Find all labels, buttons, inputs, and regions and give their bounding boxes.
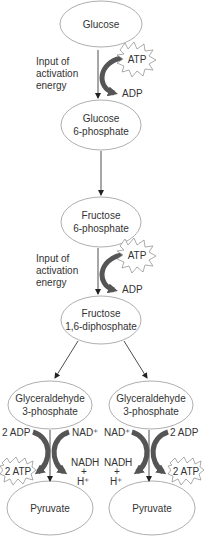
label-glucose-6p-1: Glucose	[83, 113, 120, 124]
curved-arrow-adp-to-atp-left	[33, 432, 48, 472]
node-g3p-left	[8, 381, 92, 429]
label-glucose: Glucose	[83, 19, 120, 30]
label-fructose-6p-1: Fructose	[82, 210, 121, 221]
label-fructose-6p-2: 6-phosphate	[73, 223, 129, 234]
atp-burst-2: ATP	[117, 238, 156, 273]
node-fructose-6-phosphate	[61, 197, 141, 247]
atp-burst-right: 2 ATP	[168, 457, 204, 485]
atp-burst-left: 2 ATP	[0, 457, 36, 485]
node-fructose-1-6-diphosphate	[61, 296, 141, 344]
node-glucose-6-phosphate	[61, 100, 141, 150]
glycolysis-diagram: Glucose Glucose 6-phosphate Fructose 6-p…	[0, 0, 205, 539]
nadh-left-3: H⁺	[77, 476, 89, 487]
activation-label-2-line-2: activation	[36, 265, 78, 276]
nadh-right-3: H⁺	[110, 476, 122, 487]
label-g3p-left-2: 3-phosphate	[22, 406, 78, 417]
curved-arrow-adp-to-atp-right	[153, 432, 168, 472]
arrow-f16dp-to-g3p-right	[124, 341, 147, 378]
adp-label-1: ADP	[122, 88, 143, 99]
activation-label-1-line-1: Input of	[36, 56, 70, 67]
adp-label-2: ADP	[122, 284, 143, 295]
atp-out-left: 2 ATP	[5, 466, 32, 477]
label-fructose-16dp-2: 1,6-diphosphate	[65, 321, 137, 332]
activation-label-2-line-1: Input of	[36, 253, 70, 264]
atp-label-2: ATP	[128, 250, 147, 261]
label-g3p-right-1: Glyceraldehyde	[116, 393, 186, 404]
arrow-f16dp-to-g3p-left	[55, 341, 78, 378]
atp-out-right: 2 ATP	[173, 466, 200, 477]
nad-in-left: NAD⁺	[72, 427, 98, 438]
label-glucose-6p-2: 6-phosphate	[73, 126, 129, 137]
node-g3p-right	[109, 381, 193, 429]
curved-arrow-nad-to-nadh-left	[54, 432, 69, 472]
activation-label-1-line-2: activation	[36, 68, 78, 79]
atp-label-1: ATP	[128, 54, 147, 65]
adp-in-right: 2 ADP	[170, 427, 199, 438]
adp-in-left: 2 ADP	[2, 427, 31, 438]
nad-in-right: NAD⁺	[104, 427, 130, 438]
atp-burst-1: ATP	[117, 42, 156, 77]
label-g3p-left-1: Glyceraldehyde	[15, 393, 85, 404]
activation-label-2-line-3: energy	[36, 277, 67, 288]
label-fructose-16dp-1: Fructose	[82, 308, 121, 319]
curved-arrow-nad-to-nadh-right	[132, 432, 147, 472]
label-pyruvate-left: Pyruvate	[30, 503, 70, 514]
label-pyruvate-right: Pyruvate	[132, 503, 172, 514]
activation-label-1-line-3: energy	[36, 80, 67, 91]
curved-arrow-atp-adp-2	[102, 255, 122, 290]
label-g3p-right-2: 3-phosphate	[123, 406, 179, 417]
